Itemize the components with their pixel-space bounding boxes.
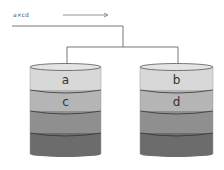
right-arrow-icon	[63, 13, 108, 17]
cylinder-right: b d	[140, 64, 213, 158]
cylinder-left-label-1: a	[62, 73, 69, 87]
diagram-canvas: a c b d	[0, 0, 224, 170]
cylinder-right-label-1: b	[173, 73, 181, 87]
cylinder-right-label-2: d	[173, 95, 181, 109]
cylinder-left: a c	[30, 64, 101, 158]
connector-lines	[12, 26, 178, 64]
cylinder-left-label-2: c	[62, 95, 69, 109]
